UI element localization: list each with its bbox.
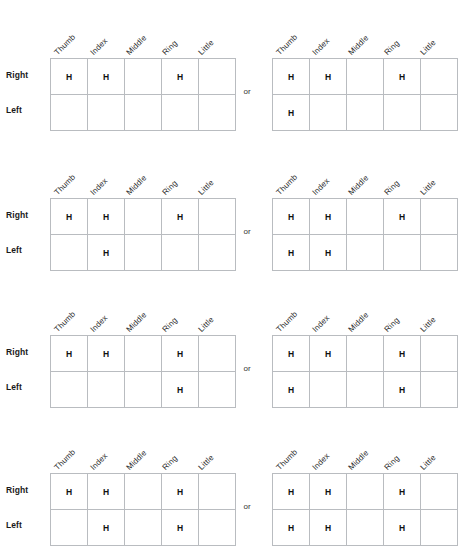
cell-right-little[interactable] [199, 59, 236, 95]
cell-left-index[interactable] [310, 95, 347, 131]
cell-left-little[interactable] [421, 510, 458, 546]
cell-right-middle[interactable] [125, 199, 162, 235]
cell-right-little[interactable] [421, 59, 458, 95]
cell-right-ring[interactable]: H [162, 474, 199, 510]
cell-right-index[interactable]: H [310, 199, 347, 235]
cell-left-index[interactable] [88, 95, 125, 131]
cell-right-index[interactable]: H [88, 199, 125, 235]
cell-right-index[interactable]: H [88, 336, 125, 372]
cell-left-little[interactable] [421, 95, 458, 131]
cell-right-little[interactable] [421, 199, 458, 235]
cell-right-middle[interactable] [125, 59, 162, 95]
cell-left-ring[interactable]: H [384, 372, 421, 408]
cell-right-middle[interactable] [347, 199, 384, 235]
cell-left-middle[interactable] [125, 372, 162, 408]
cell-right-ring[interactable]: H [162, 336, 199, 372]
column-header-row: Thumb Index Middle Ring Little [272, 3, 452, 58]
column-header-row: Thumb Index Middle Ring Little [50, 143, 230, 198]
cell-right-middle[interactable] [347, 474, 384, 510]
cell-left-ring[interactable] [162, 95, 199, 131]
cell-right-thumb[interactable]: H [51, 336, 88, 372]
cell-right-ring[interactable]: H [384, 474, 421, 510]
cell-left-index[interactable] [88, 372, 125, 408]
cell-right-index[interactable]: H [310, 474, 347, 510]
column-header-ring: Ring [158, 3, 194, 58]
column-header-little: Little [416, 143, 452, 198]
cell-left-ring[interactable] [162, 235, 199, 271]
cell-right-thumb[interactable]: H [273, 199, 310, 235]
cell-left-little[interactable] [199, 372, 236, 408]
cell-left-little[interactable] [199, 235, 236, 271]
column-header-thumb: Thumb [50, 3, 86, 58]
cell-left-ring[interactable]: H [384, 510, 421, 546]
finger-grid-table: H H H H H H [272, 473, 458, 546]
cell-left-middle[interactable] [347, 372, 384, 408]
cell-left-thumb[interactable] [51, 510, 88, 546]
cell-left-thumb[interactable] [51, 235, 88, 271]
cell-right-thumb[interactable]: H [273, 59, 310, 95]
column-header-ring: Ring [380, 3, 416, 58]
table-row: H H H [51, 59, 236, 95]
cell-left-index[interactable] [310, 372, 347, 408]
cell-right-index[interactable]: H [310, 59, 347, 95]
cell-left-little[interactable] [199, 95, 236, 131]
column-header-middle: Middle [344, 418, 380, 473]
cell-left-ring[interactable] [384, 95, 421, 131]
column-header-ring: Ring [158, 280, 194, 335]
cell-right-thumb[interactable]: H [273, 474, 310, 510]
cell-right-ring[interactable]: H [384, 336, 421, 372]
cell-left-middle[interactable] [347, 510, 384, 546]
cell-right-little[interactable] [421, 474, 458, 510]
finger-grid-table: H H H H [50, 335, 236, 408]
column-header-little: Little [416, 418, 452, 473]
cell-right-little[interactable] [199, 474, 236, 510]
cell-right-thumb[interactable]: H [51, 199, 88, 235]
cell-left-index[interactable]: H [310, 235, 347, 271]
cell-left-thumb[interactable] [51, 95, 88, 131]
cell-left-index[interactable]: H [88, 510, 125, 546]
cell-left-little[interactable] [199, 510, 236, 546]
cell-right-ring[interactable]: H [162, 59, 199, 95]
cell-left-thumb[interactable]: H [273, 372, 310, 408]
cell-left-ring[interactable]: H [162, 510, 199, 546]
cell-right-ring[interactable]: H [162, 199, 199, 235]
cell-right-middle[interactable] [347, 336, 384, 372]
column-header-ring: Ring [380, 418, 416, 473]
cell-left-ring[interactable] [384, 235, 421, 271]
cell-left-middle[interactable] [125, 235, 162, 271]
cell-left-thumb[interactable]: H [273, 235, 310, 271]
cell-left-middle[interactable] [347, 95, 384, 131]
table-row: H [273, 95, 458, 131]
cell-left-thumb[interactable]: H [273, 510, 310, 546]
table-row: H H H [273, 336, 458, 372]
cell-left-thumb[interactable] [51, 372, 88, 408]
cell-left-thumb[interactable]: H [273, 95, 310, 131]
cell-right-little[interactable] [199, 336, 236, 372]
cell-left-ring[interactable]: H [162, 372, 199, 408]
cell-right-little[interactable] [421, 336, 458, 372]
cell-right-middle[interactable] [125, 336, 162, 372]
cell-right-middle[interactable] [125, 474, 162, 510]
cell-right-little[interactable] [199, 199, 236, 235]
cell-right-index[interactable]: H [88, 474, 125, 510]
table-row [51, 95, 236, 131]
cell-left-middle[interactable] [125, 510, 162, 546]
cell-right-ring[interactable]: H [384, 59, 421, 95]
cell-left-little[interactable] [421, 372, 458, 408]
cell-left-index[interactable]: H [88, 235, 125, 271]
column-header-index: Index [308, 3, 344, 58]
cell-left-middle[interactable] [347, 235, 384, 271]
cell-left-middle[interactable] [125, 95, 162, 131]
cell-right-ring[interactable]: H [384, 199, 421, 235]
cell-right-middle[interactable] [347, 59, 384, 95]
cell-left-little[interactable] [421, 235, 458, 271]
cell-right-thumb[interactable]: H [51, 474, 88, 510]
row-label-right: Right [6, 58, 48, 93]
cell-right-thumb[interactable]: H [273, 336, 310, 372]
cell-left-index[interactable]: H [310, 510, 347, 546]
cell-right-index[interactable]: H [88, 59, 125, 95]
column-header-ring: Ring [158, 418, 194, 473]
cell-right-index[interactable]: H [310, 336, 347, 372]
cell-right-thumb[interactable]: H [51, 59, 88, 95]
